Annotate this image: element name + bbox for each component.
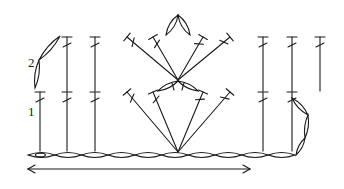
stitch-top-bar-icon	[149, 34, 158, 39]
chain-stitch-icon	[215, 153, 242, 158]
stitch-top-bar-icon	[123, 89, 131, 95]
stitch-top-bar-icon	[199, 34, 208, 39]
arrow-head-right-icon	[243, 169, 250, 173]
chain-stitch-icon	[81, 153, 108, 158]
stitch-slash-icon	[195, 99, 204, 100]
arrow-head-left-icon	[28, 165, 35, 169]
chain-stitch-icon	[268, 153, 295, 158]
stitch-top-bar-icon	[227, 33, 233, 41]
turning-chain-left-icon	[35, 60, 40, 88]
stitch-top-bar-icon	[124, 33, 130, 41]
chain-stitch-icon	[242, 153, 269, 158]
turning-chain-right-icon	[292, 98, 308, 115]
top-petal-icon	[178, 15, 190, 35]
turning-chain-right-icon	[296, 138, 305, 155]
stitch-slash-icon	[130, 94, 134, 102]
stitch-slash-icon	[195, 44, 204, 45]
row1-fan-dc-stitch-icon	[153, 92, 178, 152]
chain-stitch-icon	[162, 153, 189, 158]
turning-chain-right-icon	[304, 115, 308, 138]
cluster-petal-icon	[158, 81, 178, 91]
cluster-petal-icon	[178, 81, 198, 91]
row-label-1: 1	[28, 105, 35, 118]
row2-fan-dc-stitch-icon	[127, 37, 178, 80]
row2-fan-dc-stitch-icon	[178, 37, 230, 80]
chain-stitch-icon	[108, 153, 135, 158]
row1-fan-dc-stitch-icon	[178, 92, 230, 152]
stitch-slash-icon	[153, 96, 159, 103]
turning-chain-left-icon	[39, 36, 60, 60]
row1-fan-dc-stitch-icon	[178, 92, 203, 152]
chain-stitch-icon	[55, 153, 82, 158]
arrow-head-left-icon	[28, 169, 35, 173]
chain-stitch-icon	[135, 153, 162, 158]
arrow-head-right-icon	[243, 165, 250, 169]
stitch-diagram-canvas	[0, 0, 344, 189]
row-label-2: 2	[28, 56, 35, 69]
stitch-slash-icon	[220, 40, 228, 44]
row1-fan-dc-stitch-icon	[127, 92, 178, 152]
crochet-chart: 2 1	[0, 0, 344, 189]
chain-stitch-icon	[188, 153, 215, 158]
top-petal-icon	[166, 15, 178, 35]
